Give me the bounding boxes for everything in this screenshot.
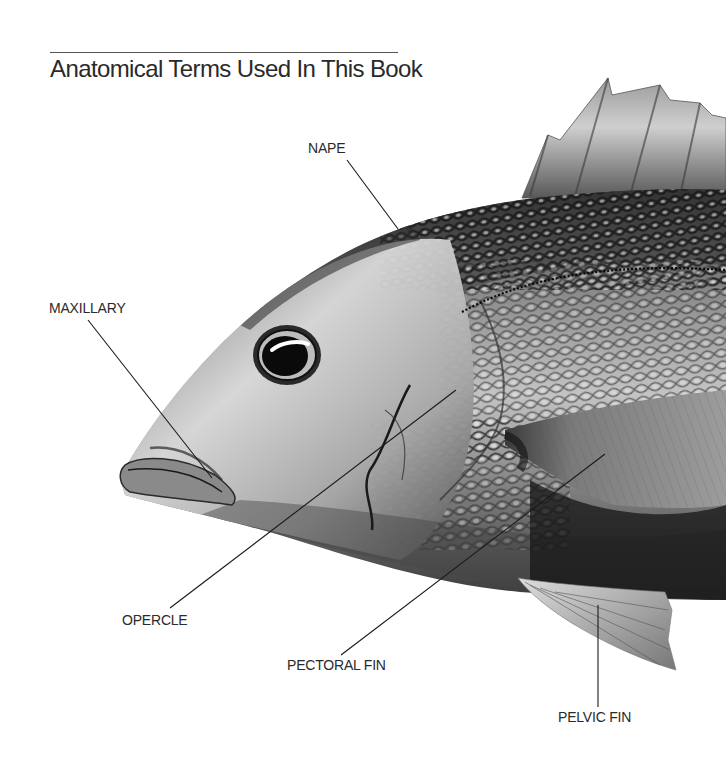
label-opercle: OPERCLE	[122, 612, 188, 628]
pelvic-fin	[518, 578, 676, 670]
dorsal-fin	[522, 78, 726, 200]
eye	[253, 325, 321, 385]
fish-body	[120, 180, 726, 600]
label-pectoral-fin: PECTORAL FIN	[287, 657, 386, 673]
nape-leader-line	[347, 160, 398, 229]
label-maxillary: MAXILLARY	[49, 300, 126, 316]
fish-illustration	[0, 0, 726, 762]
label-pelvic-fin: PELVIC FIN	[558, 709, 631, 725]
label-nape: NAPE	[308, 140, 345, 156]
